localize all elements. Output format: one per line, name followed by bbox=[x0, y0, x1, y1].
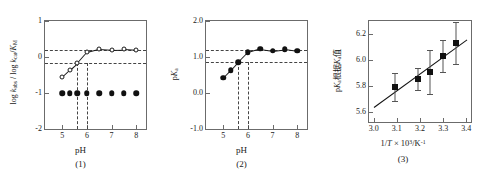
panel-1-y-tick bbox=[45, 21, 49, 22]
panel-2-y-tick-label: 0.0 bbox=[193, 89, 203, 97]
panel-3-y-tick-label: 5.8 bbox=[356, 82, 366, 90]
panel-2-caption: (2) bbox=[161, 160, 322, 169]
panel-2-guide-vertical bbox=[248, 62, 249, 129]
panel-1-guide-vertical bbox=[87, 63, 88, 129]
panel-1-data-point bbox=[121, 47, 126, 52]
panel-3-x-tick-label: 3.0 bbox=[369, 125, 379, 133]
panel-3-data-point bbox=[415, 76, 421, 82]
panel-3-y-tick bbox=[369, 86, 373, 87]
panel-3-x-tick-label: 3.2 bbox=[415, 125, 425, 133]
panel-1-data-point bbox=[60, 74, 65, 79]
panel-2-data-point bbox=[228, 68, 234, 74]
panel-3-x-axis-title-text: 1/T × 103/K-1 bbox=[380, 138, 425, 148]
panel-1-x-tick-label: 5 bbox=[60, 132, 64, 140]
panel-2-data-point bbox=[257, 46, 263, 52]
panel-2-y-tick bbox=[206, 93, 210, 94]
panel-3-x-tick-label: 3.3 bbox=[438, 125, 448, 133]
panel-2-y-tick bbox=[206, 57, 210, 58]
panel-2-data-point bbox=[282, 46, 288, 52]
panel-2-y-axis-title-text: pKa bbox=[170, 68, 179, 80]
panel-1-guide-vertical bbox=[77, 63, 78, 129]
panel-3-fit-line bbox=[373, 40, 466, 108]
panel-1-data-point bbox=[84, 90, 90, 96]
panel-3-error-bar-cap bbox=[427, 94, 433, 95]
panel-3-data-point bbox=[440, 53, 446, 59]
panel-2: 2.01.00.0-1.05678 pKa pH (2) bbox=[161, 0, 322, 175]
panel-2-data-point bbox=[235, 60, 241, 66]
panel-3-y-tick-label: 6.0 bbox=[356, 56, 366, 64]
panel-1-x-tick bbox=[136, 125, 137, 129]
panel-2-y-tick-label: 2.0 bbox=[193, 17, 203, 25]
panel-2-x-tick-label: 5 bbox=[221, 132, 225, 140]
panel-3-y-tick bbox=[369, 34, 373, 35]
panel-1-y-tick-label: -2 bbox=[35, 125, 42, 133]
panel-1-y-axis-title-text: log kobs / log kcat/KM bbox=[9, 40, 18, 104]
panel-2-data-point bbox=[270, 48, 276, 54]
panel-3-error-bar-cap bbox=[453, 64, 459, 65]
panel-2-y-tick-label: -1.0 bbox=[190, 125, 203, 133]
panel-2-x-tick bbox=[297, 125, 298, 129]
panel-1-y-tick bbox=[45, 129, 49, 130]
panel-3-x-tick bbox=[397, 118, 398, 122]
panel-2-guide-horizontal bbox=[206, 62, 307, 63]
panel-1: 10-1-25678 log kobs / log kcat/KM pH (1) bbox=[0, 0, 161, 175]
panel-2-data-point bbox=[245, 50, 251, 56]
panel-2-data-point bbox=[220, 75, 226, 81]
panel-3-y-tick-label: 5.6 bbox=[356, 108, 366, 116]
panel-3-x-tick bbox=[420, 118, 421, 122]
panel-1-data-point bbox=[74, 90, 80, 96]
panel-1-x-tick-label: 8 bbox=[134, 132, 138, 140]
panel-3-y-tick bbox=[369, 60, 373, 61]
panel-2-x-tick-label: 7 bbox=[271, 132, 275, 140]
panel-3-error-bar-cap bbox=[415, 68, 421, 69]
panel-3-x-axis-title: 1/T × 103/K-1 bbox=[322, 139, 484, 148]
panel-1-data-point bbox=[134, 48, 139, 53]
panel-2-plot-area: 2.01.00.0-1.05678 bbox=[205, 20, 308, 130]
panel-1-data-point bbox=[121, 90, 127, 96]
panel-1-y-tick-label: 1 bbox=[38, 17, 42, 25]
panel-3-x-tick bbox=[374, 118, 375, 122]
panel-1-data-point bbox=[133, 90, 139, 96]
panel-3-caption: (3) bbox=[322, 155, 484, 164]
panel-1-x-axis-title: pH bbox=[0, 146, 161, 155]
panel-2-y-tick bbox=[206, 129, 210, 130]
panel-1-data-point bbox=[109, 47, 114, 52]
panel-2-x-tick-label: 8 bbox=[295, 132, 299, 140]
panel-2-x-axis-title: pH bbox=[161, 146, 322, 155]
panel-2-guide-vertical bbox=[238, 62, 239, 129]
panel-3-x-tick-label: 3.4 bbox=[461, 125, 471, 133]
panel-1-plot-area: 10-1-25678 bbox=[44, 20, 147, 130]
panel-3-error-bar-cap bbox=[392, 101, 398, 102]
panel-3-error-bar-cap bbox=[440, 72, 446, 73]
panel-1-data-point bbox=[59, 90, 65, 96]
panel-2-y-tick-label: 1.0 bbox=[193, 53, 203, 61]
panel-2-x-tick bbox=[273, 125, 274, 129]
panel-1-data-point bbox=[75, 61, 80, 66]
panel-1-data-point bbox=[109, 90, 115, 96]
panel-2-data-point bbox=[294, 48, 300, 54]
panel-3-data-point bbox=[392, 84, 398, 90]
panel-3-error-bar-cap bbox=[392, 73, 398, 74]
panel-3-y-tick bbox=[369, 112, 373, 113]
panel-3-x-tick bbox=[443, 118, 444, 122]
panel-1-y-axis-title: log kobs / log kcat/KM bbox=[10, 34, 19, 110]
panel-1-y-tick-label: -1 bbox=[35, 89, 42, 97]
panel-1-guide-horizontal bbox=[45, 63, 146, 64]
panel-1-y-tick bbox=[45, 57, 49, 58]
panel-1-x-tick bbox=[112, 125, 113, 129]
panel-1-y-tick-label: 0 bbox=[38, 53, 42, 61]
panel-3-y-axis-title: pKa根据Ka值 bbox=[334, 34, 343, 106]
panel-3-y-axis-title-text: pKa根据Ka值 bbox=[333, 49, 342, 93]
panel-1-data-point bbox=[67, 90, 73, 96]
panel-3-error-bar-cap bbox=[415, 90, 421, 91]
panel-3-data-point bbox=[453, 40, 459, 46]
panel-3-error-bar-cap bbox=[453, 22, 459, 23]
panel-3-error-bar-cap bbox=[440, 40, 446, 41]
panel-3-y-tick-label: 6.2 bbox=[356, 30, 366, 38]
panel-3-x-tick bbox=[466, 118, 467, 122]
panel-1-data-point bbox=[97, 47, 102, 52]
panel-3-error-bar-cap bbox=[427, 50, 433, 51]
panel-2-x-tick-label: 6 bbox=[246, 132, 250, 140]
panel-1-caption: (1) bbox=[0, 160, 161, 169]
panel-1-y-tick bbox=[45, 93, 49, 94]
